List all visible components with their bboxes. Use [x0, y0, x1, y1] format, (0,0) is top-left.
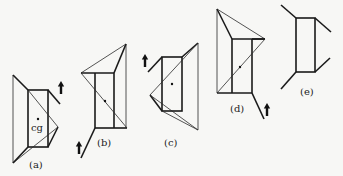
up-arrow-icon: [58, 81, 64, 94]
cg-label: cg: [31, 122, 44, 133]
panel-label-d: (d): [230, 103, 244, 114]
panel-e: (e): [281, 5, 331, 97]
panel-c: (c): [142, 43, 198, 148]
panel-label-c: (c): [164, 137, 178, 148]
panel-label-e: (e): [300, 86, 314, 97]
panels-svg: cg (a) (b) (c): [0, 0, 343, 176]
up-arrow-icon: [264, 103, 270, 116]
cg-dot: [104, 100, 106, 102]
cg-dot: [239, 66, 241, 68]
diagram-canvas: cg (a) (b) (c): [0, 0, 343, 176]
cg-dot: [171, 83, 173, 85]
up-arrow-icon: [76, 141, 82, 154]
cg-dot: [37, 118, 39, 120]
up-arrow-icon: [142, 54, 148, 67]
panel-label-a: (a): [29, 159, 43, 170]
panel-d: (d): [217, 9, 270, 119]
panel-b: (b): [76, 44, 127, 158]
panel-label-b: (b): [97, 137, 111, 148]
panel-a: cg (a): [13, 75, 64, 170]
